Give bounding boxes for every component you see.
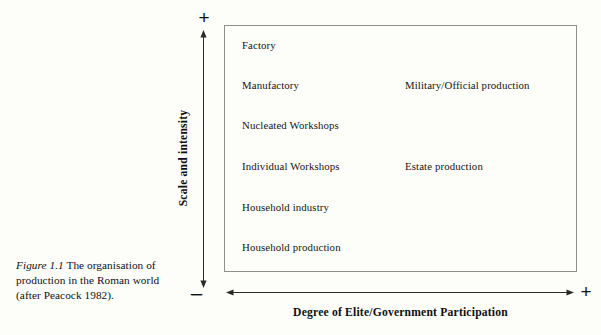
figure-number: Figure 1.1 <box>16 259 64 271</box>
plot-label-individual-workshops: Individual Workshops <box>242 160 340 173</box>
plot-label-estate-production: Estate production <box>405 160 483 173</box>
horizontal-axis-arrow <box>226 285 574 300</box>
plot-label-household-industry: Household industry <box>242 201 329 214</box>
figure-page: Figure 1.1 The organisation of productio… <box>0 0 601 335</box>
vertical-axis-plus-marker: + <box>196 9 212 27</box>
horizontal-axis-plus-marker: + <box>578 283 594 301</box>
horizontal-axis-label: Degree of Elite/Government Participation <box>224 306 577 319</box>
plot-label-manufactory: Manufactory <box>242 79 299 92</box>
plot-label-factory: Factory <box>242 39 276 52</box>
plot-label-household-production: Household production <box>242 241 341 254</box>
plot-label-nucleated-workshops: Nucleated Workshops <box>242 119 339 132</box>
figure-caption: Figure 1.1 The organisation of productio… <box>16 258 174 304</box>
plot-label-military-official-production: Military/Official production <box>405 79 530 92</box>
plot-area: Factory Manufactory Nucleated Workshops … <box>224 25 577 272</box>
vertical-axis-arrow <box>196 30 211 288</box>
horizontal-axis-minus-marker: – <box>188 284 204 302</box>
vertical-axis-label: Scale and intensity <box>177 110 190 207</box>
